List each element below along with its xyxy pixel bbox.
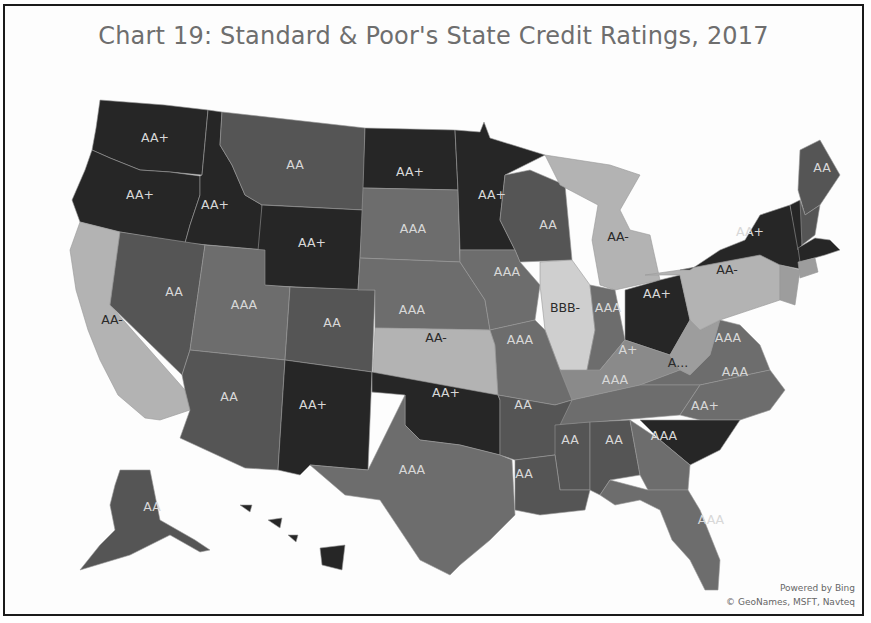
rating-label-nd: AA+ <box>396 164 424 179</box>
state-az <box>180 350 285 470</box>
rating-label-tn: AAA <box>602 372 629 387</box>
rating-label-id: AA+ <box>201 197 229 212</box>
state-nm <box>278 360 372 475</box>
rating-label-nv: AA <box>165 284 183 299</box>
rating-label-nm: AA+ <box>299 397 327 412</box>
rating-label-al: AA <box>605 432 623 447</box>
rating-label-wv: A... <box>668 355 688 370</box>
rating-label-sd: AAA <box>400 221 427 236</box>
rating-label-ms: AA <box>561 432 579 447</box>
rating-label-ut: AAA <box>231 297 258 312</box>
rating-label-ny: AA+ <box>736 224 764 239</box>
state-fl <box>600 480 720 590</box>
state-co <box>285 287 375 372</box>
state-nj <box>780 265 800 305</box>
rating-label-il: BBB- <box>550 300 580 315</box>
rating-label-fl: AAA <box>698 512 725 527</box>
rating-label-ca: AA- <box>101 312 123 327</box>
state-me <box>798 140 840 215</box>
state-ct <box>798 258 818 278</box>
rating-label-wa: AA+ <box>141 130 169 145</box>
rating-label-mn: AA+ <box>478 187 506 202</box>
state-ak <box>80 470 210 570</box>
rating-label-or: AA+ <box>126 187 154 202</box>
state-hi <box>240 505 345 570</box>
rating-label-nc: AAA <box>722 364 749 379</box>
rating-label-ks: AA- <box>425 330 447 345</box>
rating-label-tx: AAA <box>399 462 426 477</box>
rating-label-mo: AAA <box>507 332 534 347</box>
rating-label-co: AA <box>323 315 341 330</box>
credit-powered-by: Powered by Bing <box>780 583 855 593</box>
rating-label-pa: AA- <box>716 262 738 277</box>
rating-label-me: AA <box>813 160 831 175</box>
rating-label-sc: AA+ <box>691 398 719 413</box>
rating-label-va: AAA <box>715 330 742 345</box>
us-state-map: AA+AA+AA+AAAA+AA+AA+AAAAAAA-AAAA+AA-AAAA… <box>0 0 871 623</box>
rating-label-la: AA <box>515 466 533 481</box>
rating-label-az: AA <box>220 389 238 404</box>
rating-label-ky: A+ <box>618 342 637 357</box>
rating-label-in: AAA <box>595 300 622 315</box>
rating-label-ak: AA <box>143 499 161 514</box>
credit-attribution: © GeoNames, MSFT, Navteq <box>726 597 855 607</box>
rating-label-mt: AA <box>286 157 304 172</box>
rating-label-ok: AA+ <box>432 385 460 400</box>
rating-label-wy: AA+ <box>298 235 326 250</box>
rating-label-wi: AA <box>539 217 557 232</box>
rating-label-mi: AA- <box>607 229 629 244</box>
rating-label-ia: AAA <box>494 264 521 279</box>
state-nd <box>363 128 458 190</box>
rating-label-ga: AAA <box>651 428 678 443</box>
rating-label-ar: AA <box>514 397 532 412</box>
rating-label-oh: AA+ <box>643 286 671 301</box>
rating-label-ne: AAA <box>399 302 426 317</box>
